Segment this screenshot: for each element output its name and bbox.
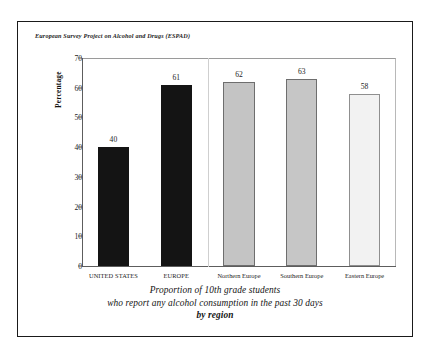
caption-line-1: Proportion of 10th grade students	[18, 284, 412, 297]
y-axis-tick-label: 70	[67, 54, 86, 63]
y-axis-tick-label: 0	[67, 262, 86, 271]
caption-line-2: who report any alcohol consumption in th…	[18, 297, 412, 310]
bar-column[interactable]: 40UNITED STATES	[98, 147, 129, 266]
y-axis-tick-label: 20	[67, 202, 86, 211]
y-axis-tick-label: 10	[67, 232, 86, 241]
bar-column[interactable]: 63Southern Europe	[286, 79, 317, 266]
source-label: European Survey Project on Alcohol and D…	[35, 32, 190, 39]
x-axis-tick-label: Eastern Europe	[345, 272, 384, 279]
bar[interactable]	[223, 82, 254, 266]
bar[interactable]	[98, 147, 129, 266]
bar[interactable]	[349, 94, 380, 266]
bar-value-label: 40	[110, 135, 118, 144]
y-axis-tick-mark	[78, 206, 82, 207]
bar-value-label: 61	[172, 73, 180, 82]
x-axis-tick-label: Southern Europe	[280, 272, 323, 279]
bar-value-label: 58	[361, 82, 369, 91]
bar-chart-plot: Percentage 010203040506070 40UNITED STAT…	[67, 58, 396, 267]
figure-caption: Proportion of 10th grade students who re…	[18, 284, 412, 322]
y-axis-title: Percentage	[54, 71, 63, 108]
bar[interactable]	[161, 85, 192, 266]
y-axis-tick-mark	[78, 87, 82, 88]
y-axis-tick-mark	[78, 236, 82, 237]
y-axis-tick-label: 30	[67, 172, 86, 181]
y-axis-tick-label: 40	[67, 143, 86, 152]
bar-column[interactable]: 58Eastern Europe	[349, 94, 380, 266]
y-axis-tick-mark	[78, 176, 82, 177]
bar-column[interactable]: 62Northern Europe	[223, 82, 254, 266]
figure-frame: European Survey Project on Alcohol and D…	[17, 21, 413, 337]
bar-value-label: 62	[235, 70, 243, 79]
x-axis-line	[82, 266, 396, 267]
caption-line-3: by region	[18, 309, 412, 322]
x-axis-tick-label: UNITED STATES	[89, 272, 138, 279]
group-divider	[208, 58, 209, 267]
y-axis-tick-label: 50	[67, 113, 86, 122]
x-axis-tick-label: Northern Europe	[217, 272, 260, 279]
y-axis-tick-mark	[78, 117, 82, 118]
x-axis-tick-label: EUROPE	[163, 272, 188, 279]
y-axis-tick-mark	[78, 266, 82, 267]
y-axis-tick-mark	[78, 147, 82, 148]
bar[interactable]	[286, 79, 317, 266]
y-axis-tick-mark	[78, 58, 82, 59]
y-axis-tick-label: 60	[67, 83, 86, 92]
bar-value-label: 63	[298, 67, 306, 76]
bar-column[interactable]: 61EUROPE	[161, 85, 192, 266]
